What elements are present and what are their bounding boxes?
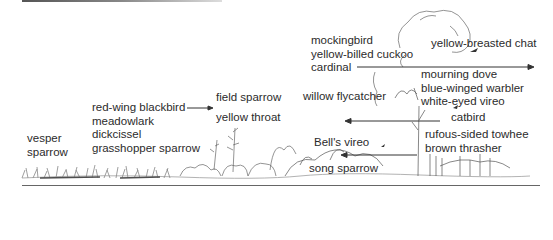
- label-thicket-birds: mourning dove blue-winged warbler white-…: [421, 68, 524, 109]
- label-line: brown thrasher: [425, 142, 529, 156]
- label-yellow-breasted-chat: yellow-breasted chat: [431, 37, 536, 51]
- grass-icon: [22, 165, 530, 178]
- label-vesper-sparrow: vesper sparrow: [27, 132, 68, 159]
- label-grassland-birds: red-wing blackbird meadowlark dickcissel…: [92, 101, 200, 155]
- label-willow-flycatcher: willow flycatcher: [303, 90, 386, 104]
- label-yellow-throat: yellow throat: [216, 111, 281, 125]
- label-line: mockingbird: [311, 34, 413, 48]
- label-line: grasshopper sparrow: [92, 142, 200, 156]
- label-line: cardinal: [311, 61, 413, 75]
- label-line: yellow-breasted chat: [431, 37, 536, 51]
- label-line: blue-winged warbler: [421, 82, 524, 96]
- label-line: willow flycatcher: [303, 90, 386, 104]
- label-line: vesper: [27, 132, 68, 146]
- label-line: red-wing blackbird: [92, 101, 200, 115]
- label-field-sparrow: field sparrow: [216, 91, 281, 105]
- label-line: catbird: [451, 111, 486, 125]
- label-line: field sparrow: [216, 91, 281, 105]
- bottom-rule: [22, 185, 540, 186]
- label-line: dickcissel: [92, 128, 200, 142]
- label-bells-vireo: Bell's vireo: [314, 136, 369, 150]
- label-line: song sparrow: [309, 162, 378, 176]
- label-catbird: catbird: [451, 111, 486, 125]
- label-line: yellow throat: [216, 111, 281, 125]
- label-towhee-thrasher: rufous-sided towhee brown thrasher: [425, 128, 529, 155]
- label-line: yellow-billed cuckoo: [311, 48, 413, 62]
- label-song-sparrow: song sparrow: [309, 162, 378, 176]
- label-line: meadowlark: [92, 115, 200, 129]
- label-line: sparrow: [27, 146, 68, 160]
- label-line: white-eyed vireo: [421, 95, 524, 109]
- label-line: rufous-sided towhee: [425, 128, 529, 142]
- label-shrub-upper-birds: mockingbird yellow-billed cuckoo cardina…: [311, 34, 413, 75]
- label-line: mourning dove: [421, 68, 524, 82]
- label-line: Bell's vireo: [314, 136, 369, 150]
